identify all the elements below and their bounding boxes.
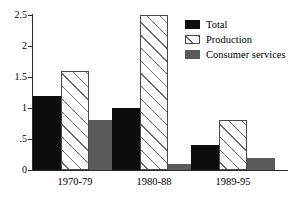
y-tick-label-text: 2.5 xyxy=(0,10,27,20)
bar-1989-95-total xyxy=(191,145,219,170)
y-tick-mark xyxy=(28,170,32,171)
y-tick-label-text: 1 xyxy=(0,103,27,113)
legend-item-total: Total xyxy=(185,17,286,31)
legend-swatch-services xyxy=(185,50,200,59)
legend: TotalProductionConsumer services xyxy=(185,17,286,62)
bar-chart: 0.511.522.5 1970-791980-881989-95 TotalP… xyxy=(0,0,293,197)
x-axis-label-0: 1970-79 xyxy=(35,176,115,188)
legend-swatch-production xyxy=(185,35,200,44)
legend-swatch-total xyxy=(185,20,200,29)
y-tick-label-text: 0 xyxy=(0,165,27,175)
y-tick-mark xyxy=(28,15,32,16)
legend-item-production: Production xyxy=(185,32,286,46)
y-tick-label: 2.5 xyxy=(0,10,27,20)
y-tick-label: 0 xyxy=(0,165,27,175)
legend-label: Production xyxy=(206,34,252,45)
y-tick-mark xyxy=(28,108,32,109)
y-tick-label: 2 xyxy=(0,41,27,51)
legend-label: Consumer services xyxy=(206,49,286,60)
bar-1989-95-production xyxy=(219,120,247,170)
y-tick-label-text: .5 xyxy=(0,134,27,144)
x-axis-line xyxy=(28,170,288,171)
x-axis-label-1: 1980-88 xyxy=(114,176,194,188)
legend-label: Total xyxy=(206,19,227,30)
y-tick-mark xyxy=(28,139,32,140)
y-tick-label-text: 2 xyxy=(0,41,27,51)
y-tick-label: 1 xyxy=(0,103,27,113)
bar-1970-79-production xyxy=(61,71,89,170)
bar-1980-88-total xyxy=(112,108,140,170)
bar-1980-88-production xyxy=(140,15,168,170)
x-axis-label-2: 1989-95 xyxy=(193,176,273,188)
y-tick-label: 1.5 xyxy=(0,72,27,82)
bar-1989-95-consumer-services xyxy=(247,158,275,170)
y-tick-label-text: 1.5 xyxy=(0,72,27,82)
legend-item-consumer-services: Consumer services xyxy=(185,47,286,61)
y-tick-label: .5 xyxy=(0,134,27,144)
y-tick-mark xyxy=(28,77,32,78)
bar-1970-79-total xyxy=(33,96,61,170)
y-tick-mark xyxy=(28,46,32,47)
